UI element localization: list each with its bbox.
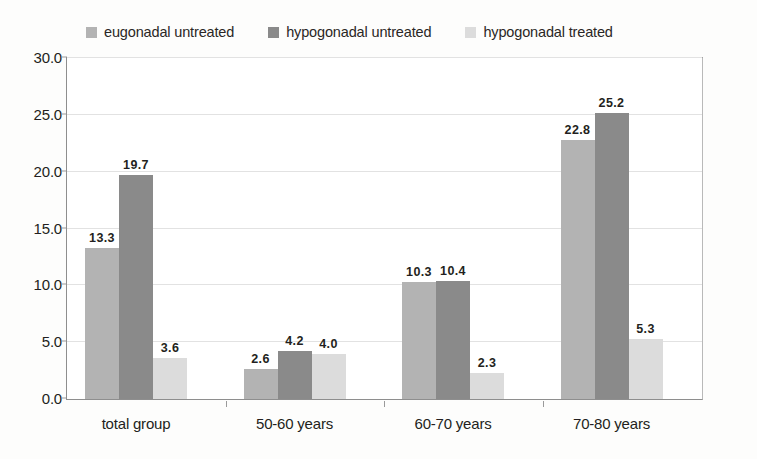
x-axis-tick-mark (543, 401, 544, 407)
bar: 4.2 (278, 351, 312, 399)
bar-value-label: 13.3 (89, 231, 115, 245)
bar-value-label: 19.7 (123, 158, 149, 172)
bar: 25.2 (595, 113, 629, 399)
x-axis-tick-mark (226, 401, 227, 407)
chart-legend: eugonadal untreated hypogonadal untreate… (86, 20, 706, 44)
bar: 10.4 (436, 281, 470, 399)
bar-value-label: 4.0 (319, 337, 338, 351)
bar-value-label: 3.6 (161, 341, 180, 355)
y-axis-tick-label: 15.0 (4, 219, 62, 236)
bar-value-label: 22.8 (565, 123, 591, 137)
bar-value-label: 10.3 (406, 265, 432, 279)
x-axis-tick-label: 50-60 years (256, 415, 333, 432)
bar: 2.6 (244, 369, 278, 399)
bar: 10.3 (402, 282, 436, 399)
bar-value-label: 5.3 (636, 322, 655, 336)
legend-label: hypogonadal untreated (286, 24, 431, 40)
legend-item-eugonadal-untreated: eugonadal untreated (86, 24, 234, 40)
bar: 3.6 (153, 358, 187, 399)
bars-layer: 13.319.73.62.64.24.010.310.42.322.825.25… (67, 58, 701, 399)
bar-group: 13.319.73.6 (67, 58, 226, 399)
bar-value-label: 25.2 (599, 96, 625, 110)
bar-value-label: 2.6 (251, 352, 270, 366)
bar: 4.0 (312, 354, 346, 399)
bar: 22.8 (561, 140, 595, 399)
x-axis: total group50-60 years60-70 years70-80 y… (67, 401, 701, 447)
bar: 19.7 (119, 175, 153, 399)
legend-item-hypogonadal-treated: hypogonadal treated (465, 24, 612, 40)
legend-label: eugonadal untreated (104, 24, 234, 40)
x-axis-tick-label: total group (102, 415, 171, 432)
legend-swatch-icon (86, 27, 97, 38)
y-axis-tick-label: 0.0 (4, 390, 62, 407)
y-axis-tick-label: 30.0 (4, 49, 62, 66)
x-axis-tick-label: 70-80 years (573, 415, 650, 432)
legend-swatch-icon (268, 27, 279, 38)
y-axis-tick-label: 25.0 (4, 105, 62, 122)
y-axis-tick-label: 20.0 (4, 162, 62, 179)
y-axis-tick-label: 5.0 (4, 333, 62, 350)
bar-group: 22.825.25.3 (543, 58, 702, 399)
bar-group: 2.64.24.0 (226, 58, 385, 399)
bar-value-label: 2.3 (478, 356, 497, 370)
legend-label: hypogonadal treated (483, 24, 612, 40)
x-axis-tick-mark (384, 401, 385, 407)
bar-value-label: 4.2 (285, 334, 304, 348)
legend-swatch-icon (465, 27, 476, 38)
x-axis-tick-label: 60-70 years (414, 415, 491, 432)
y-axis: 0.05.010.015.020.025.030.0 (0, 57, 62, 400)
bar: 13.3 (85, 248, 119, 399)
bar-value-label: 10.4 (440, 264, 466, 278)
bar: 2.3 (470, 373, 504, 399)
bar: 5.3 (629, 339, 663, 399)
y-axis-tick-label: 10.0 (4, 276, 62, 293)
legend-item-hypogonadal-untreated: hypogonadal untreated (268, 24, 431, 40)
bar-group: 10.310.42.3 (384, 58, 543, 399)
bar-chart: eugonadal untreated hypogonadal untreate… (0, 0, 757, 459)
